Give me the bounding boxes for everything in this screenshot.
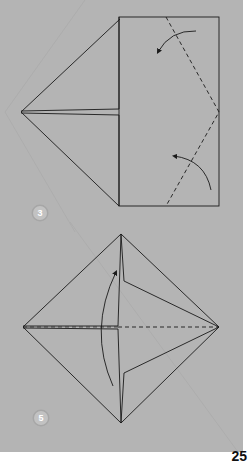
step-3-diagram bbox=[21, 17, 219, 206]
page-number: 25 bbox=[231, 449, 247, 463]
curved-arrow-top-icon bbox=[158, 31, 196, 52]
step-3-number: 3 bbox=[37, 208, 42, 218]
background-guide-lines bbox=[5, 0, 238, 452]
step-3-upper-flap-edge bbox=[21, 17, 119, 111]
step-3-valley-fold-lines bbox=[166, 17, 219, 206]
step-5-badge: 5 bbox=[34, 411, 48, 425]
step-3-folded-left-point bbox=[21, 19, 120, 206]
step-5-inner-kite bbox=[121, 234, 219, 423]
curved-arrow-bottom-icon bbox=[174, 156, 211, 190]
step-3-square-right-half bbox=[119, 17, 219, 206]
step-3-badge: 3 bbox=[33, 206, 47, 220]
step-5-number: 5 bbox=[38, 413, 43, 423]
step-5-diagram bbox=[23, 234, 219, 423]
